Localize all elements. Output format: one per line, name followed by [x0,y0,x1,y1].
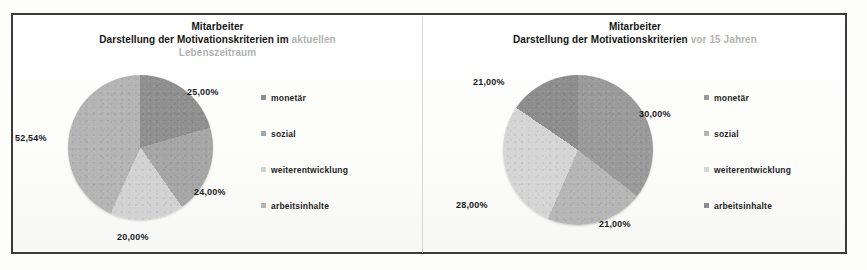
chart-title-line2: Darstellung der Motivationskriterien vor… [423,33,847,46]
legend-label-arbeitsinhalte: arbeitsinhalte [271,201,329,211]
legend-swatch-icon [704,95,709,100]
chart-title-line2: Darstellung der Motivationskriterien im … [13,33,422,46]
chart-title-line2-faded: vor 15 Jahren [691,34,757,45]
chart-title-right: Mitarbeiter Darstellung der Motivationsk… [423,20,847,46]
legend-swatch-icon [261,95,266,100]
pie-label-weiterentwicklung-left: 20,00% [117,232,149,242]
pie-label-monetaer-left: 25,00% [187,87,219,97]
legend-right: monetär sozial weiterentwicklung arbeits… [704,92,791,236]
chart-title-line2-strong: Darstellung der Motivationskriterien [513,34,688,45]
pie-label-sozial-left: 24,00% [194,187,226,197]
legend-label-arbeitsinhalte: arbeitsinhalte [714,201,772,211]
legend-label-monetaer: monetär [714,93,749,103]
legend-item-weiterentwicklung-right[interactable]: weiterentwicklung [704,164,791,175]
legend-left: monetär sozial weiterentwicklung arbeits… [261,92,348,236]
pie-label-monetaer-right: 30,00% [639,109,671,119]
legend-label-sozial: sozial [271,129,296,139]
pie-label-weiterentwicklung-right: 28,00% [456,200,488,210]
legend-item-arbeitsinhalte-right[interactable]: arbeitsinhalte [704,200,791,211]
pie-label-arbeitsinhalte-left: 52,54% [15,133,47,143]
legend-swatch-icon [704,203,709,208]
legend-label-weiterentwicklung: weiterentwicklung [271,165,348,175]
legend-item-sozial-left[interactable]: sozial [261,128,348,139]
chart-title-line2-faded: aktuellen [292,34,336,45]
chart-title-left: Mitarbeiter Darstellung der Motivationsk… [13,20,422,59]
chart-title-line1: Mitarbeiter [13,20,422,33]
pie-chart-right [503,75,653,225]
legend-item-arbeitsinhalte-left[interactable]: arbeitsinhalte [261,200,348,211]
chart-title-line2-strong: Darstellung der Motivationskriterien im [99,34,289,45]
pie-label-sozial-right: 21,00% [599,219,631,229]
legend-swatch-icon [704,167,709,172]
chart-area-left: 25,00% 24,00% 20,00% 52,54% monetär sozi… [13,67,422,252]
legend-label-weiterentwicklung: weiterentwicklung [714,165,791,175]
legend-item-sozial-right[interactable]: sozial [704,128,791,139]
legend-item-monetaer-left[interactable]: monetär [261,92,348,103]
legend-label-monetaer: monetär [271,93,306,103]
chart-panel-right: Mitarbeiter Darstellung der Motivationsk… [423,15,847,252]
pie-slices-right[interactable] [503,75,653,225]
document-frame: Mitarbeiter Darstellung der Motivationsk… [11,13,847,254]
chart-title-line1: Mitarbeiter [423,20,847,33]
legend-label-sozial: sozial [714,129,739,139]
legend-item-weiterentwicklung-left[interactable]: weiterentwicklung [261,164,348,175]
legend-swatch-icon [261,203,266,208]
legend-swatch-icon [704,131,709,136]
legend-swatch-icon [261,131,266,136]
legend-swatch-icon [261,167,266,172]
screenshot-root: Mitarbeiter Darstellung der Motivationsk… [0,0,867,270]
chart-title-line3: Lebenszeitraum [13,46,422,59]
pie-label-arbeitsinhalte-right: 21,00% [473,77,505,87]
legend-item-monetaer-right[interactable]: monetär [704,92,791,103]
chart-area-right: 30,00% 21,00% 28,00% 21,00% monetär sozi… [423,67,847,252]
chart-panel-left: Mitarbeiter Darstellung der Motivationsk… [13,15,422,252]
